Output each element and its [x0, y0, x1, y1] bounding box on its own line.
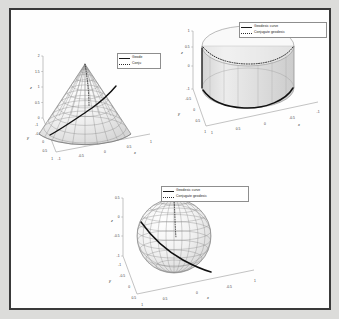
- cyl-z-tick-1: 1: [188, 29, 190, 33]
- sph-z-tick-05: 0.5: [115, 196, 120, 200]
- cylinder-legend-row-conjugate[interactable]: Conjugate geodesic: [241, 30, 324, 36]
- dotted-line-swatch-icon: [163, 195, 174, 200]
- cone-x-axis-label: x: [133, 151, 137, 155]
- solid-line-swatch-icon: [241, 25, 252, 30]
- cyl-x-tick-n05: -0.5: [289, 116, 295, 120]
- screenshot-root: 2 1.5 1 0.5 0 z -1 -0.5 0 0.5 1 y: [0, 0, 339, 319]
- cone-x-tick-05: 0.5: [127, 145, 132, 149]
- sph-x-tick-05: 0.5: [163, 297, 168, 301]
- sphere-legend[interactable]: Geodesic curve Conjugate geodesic: [161, 186, 249, 202]
- cone-y-axis-label: y: [26, 136, 30, 140]
- figure-canvas: 2 1.5 1 0.5 0 z -1 -0.5 0 0.5 1 y: [11, 10, 329, 308]
- sph-x-tick-n1: 1: [254, 279, 256, 283]
- cone-y-tick-0: 0: [42, 140, 44, 144]
- cyl-z-tick-0: 0: [188, 64, 190, 68]
- solid-line-swatch-icon: [119, 56, 130, 61]
- cylinder-legend-label-geodesic: Geodesic curve: [254, 25, 278, 28]
- sph-z-axis-label: z: [110, 219, 113, 223]
- cyl-z-axis-label: z: [180, 51, 183, 55]
- cyl-y-axis-label: y: [177, 112, 181, 116]
- cone-y-tick-05: 0.5: [42, 149, 47, 153]
- cone-legend[interactable]: Geode Conju: [117, 53, 161, 69]
- sph-z-tick-n1: -1: [117, 254, 120, 258]
- cyl-y-tick-0: 0: [193, 108, 195, 112]
- sph-x-tick-n05: -0.5: [226, 285, 232, 289]
- cone-legend-row-conjugate[interactable]: Conju: [119, 61, 158, 67]
- sphere-legend-row-conjugate[interactable]: Conjugate geodesic: [163, 194, 246, 200]
- cone-x-tick-0: 0: [104, 150, 106, 154]
- sphere-legend-label-conjugate: Conjugate geodesic: [176, 195, 207, 198]
- dotted-line-swatch-icon: [119, 62, 130, 67]
- cyl-x-tick-05: 0.5: [236, 127, 241, 131]
- cone-plot-panel[interactable]: 2 1.5 1 0.5 0 z -1 -0.5 0 0.5 1 y: [13, 42, 163, 172]
- sph-x-axis-label: x: [206, 296, 210, 300]
- figure-frame: 2 1.5 1 0.5 0 z -1 -0.5 0 0.5 1 y: [9, 8, 331, 310]
- sph-x-tick-0: 0: [196, 291, 198, 295]
- cylinder-plot-panel[interactable]: 1 0.5 0 -1 z -0.5 0 0.5 1 y 1 0.5: [166, 14, 331, 174]
- sph-z-tick-0: 0: [118, 215, 120, 219]
- cyl-y-tick-n05: -0.5: [185, 97, 191, 101]
- cyl-x-tick-1: 1: [211, 131, 213, 135]
- sph-y-tick-n05: -0.5: [119, 274, 125, 278]
- sph-y-tick-0: 0: [128, 285, 130, 289]
- cyl-z-tick-n1: -1: [187, 87, 190, 91]
- cyl-x-tick-n1: -1: [317, 110, 320, 114]
- cone-z-tick-1p5: 1.5: [35, 70, 40, 74]
- cylinder-legend-label-conjugate: Conjugate geodesic: [254, 31, 285, 34]
- sph-y-axis-label: y: [108, 279, 112, 283]
- sph-y-tick-n1: -1: [118, 263, 121, 267]
- sphere-surface: [137, 198, 211, 273]
- cone-z-tick-0p5: 0.5: [35, 101, 40, 105]
- cone-z-tick-2: 2: [38, 54, 40, 58]
- cone-legend-label-conjugate: Conju: [132, 62, 141, 65]
- dotted-line-swatch-icon: [241, 31, 252, 36]
- cone-legend-label-geodesic: Geode: [132, 56, 142, 59]
- cone-x-tick-1: 1: [150, 140, 152, 144]
- cyl-x-axis-label: x: [297, 123, 301, 127]
- cone-y-tick-n1: -1: [35, 123, 38, 127]
- cyl-z-tick-05: 0.5: [185, 45, 190, 49]
- cone-z-axis-label: z: [29, 86, 32, 90]
- sphere-legend-label-geodesic: Geodesic curve: [176, 189, 200, 192]
- sph-y-tick-05: 0.5: [131, 296, 136, 300]
- solid-line-swatch-icon: [163, 189, 174, 194]
- cyl-x-tick-0: 0: [264, 122, 266, 126]
- cyl-y-tick-05: 0.5: [195, 119, 200, 123]
- cone-y-tick-1: 1: [51, 157, 53, 161]
- cone-surface: [39, 64, 131, 155]
- sph-y-tick-1: 1: [141, 303, 143, 307]
- cylinder-legend[interactable]: Geodesic curve Conjugate geodesic: [239, 22, 327, 38]
- sph-z-tick-n05: -0.5: [114, 234, 120, 238]
- cylinder-plot-svg: 1 0.5 0 -1 z -0.5 0 0.5 1 y 1 0.5: [166, 14, 331, 174]
- cone-x-tick-n05: -0.5: [78, 154, 84, 158]
- cone-z-tick-0: 0: [38, 116, 40, 120]
- cone-x-tick-n1: -1: [58, 157, 61, 161]
- cone-z-tick-1: 1: [38, 85, 40, 89]
- cone-mesh: [39, 64, 131, 155]
- cyl-y-tick-1: 1: [204, 130, 206, 134]
- cylinder-surface: [202, 26, 294, 108]
- sphere-plot-panel[interactable]: 0.5 0 -0.5 -1 z -1 -0.5 0 0.5 1 y 0.5: [99, 178, 267, 310]
